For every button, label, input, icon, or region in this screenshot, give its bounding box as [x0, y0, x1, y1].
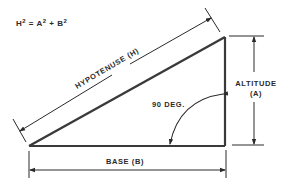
angle-label: 90 DEG. [152, 100, 185, 109]
hypotenuse-extension-left [13, 119, 26, 142]
altitude-label-symbol: (A) [250, 89, 262, 98]
hypotenuse-dimension-line-upper [130, 18, 211, 64]
right-triangle-diagram: HYPOTENUSE (H) ALTITUDE (A) BASE (B) 90 … [0, 0, 288, 190]
altitude-dimension: ALTITUDE (A) [229, 36, 277, 145]
altitude-label: ALTITUDE [235, 79, 276, 88]
hypotenuse-dimension-line [20, 75, 112, 131]
base-label: BASE (B) [106, 157, 144, 166]
right-angle-indicator: 90 DEG. [152, 94, 223, 144]
hypotenuse-label: HYPOTENUSE (H) [73, 46, 140, 91]
hypotenuse-dimension: HYPOTENUSE (H) [13, 8, 220, 142]
base-dimension: BASE (B) [29, 150, 226, 178]
